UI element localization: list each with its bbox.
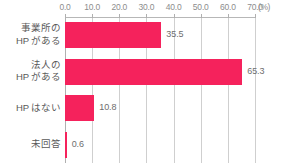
bar-value-label-3: 0.6	[72, 139, 84, 149]
x-tick-label-0: 0.0	[59, 2, 70, 12]
plot-area: 35.5 65.3 10.8 0.6	[65, 17, 255, 163]
y-axis-category-labels: 事業所の HP がある 法人の HP がある HP はない 未回答	[0, 17, 63, 163]
tickmark-70.0	[255, 14, 256, 18]
x-tick-label-1: 10.0	[84, 2, 100, 12]
bar-chart: 0.0 10.0 20.0 30.0 40.0 50.0 60.0 70.0 (…	[0, 0, 287, 166]
bar-3	[65, 132, 67, 158]
bar-2	[65, 95, 94, 121]
category-label-1: 法人の HP がある	[16, 59, 61, 84]
bar-value-label-1: 65.3	[247, 66, 264, 76]
bar-1	[65, 59, 242, 85]
category-label-3: 未回答	[31, 138, 61, 151]
bars-layer: 35.5 65.3 10.8 0.6	[65, 17, 255, 163]
x-axis-unit-label: (%)	[258, 2, 270, 12]
x-tick-label-4: 40.0	[166, 2, 182, 12]
x-tick-label-6: 60.0	[220, 2, 236, 12]
category-label-0: 事業所の HP がある	[16, 22, 61, 47]
bar-row: 0.6	[65, 132, 255, 158]
x-tick-label-3: 30.0	[139, 2, 155, 12]
x-tick-label-5: 50.0	[193, 2, 209, 12]
bar-0	[65, 22, 161, 48]
x-tick-label-2: 20.0	[111, 2, 127, 12]
bar-value-label-0: 35.5	[166, 29, 183, 39]
bar-row: 10.8	[65, 95, 255, 121]
bar-row: 35.5	[65, 22, 255, 48]
category-label-2: HP はない	[16, 102, 61, 115]
x-axis-tick-labels: 0.0 10.0 20.0 30.0 40.0 50.0 60.0 70.0 (…	[0, 2, 287, 15]
gridline-70.0	[255, 17, 256, 163]
bar-row: 65.3	[65, 59, 255, 85]
bar-value-label-2: 10.8	[99, 102, 116, 112]
